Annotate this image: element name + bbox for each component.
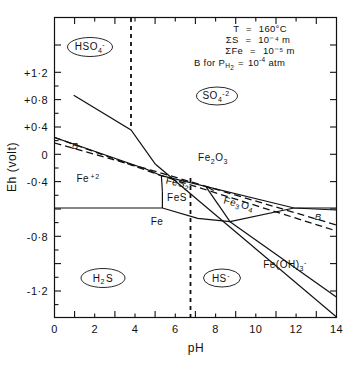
condition-total-sulfur: ΣS = 10⁻⁴ m: [226, 34, 291, 45]
series-fe-fes-boundary: [162, 208, 230, 222]
species-text-h2s: H2S: [93, 273, 113, 286]
line-label-b-right: B: [315, 211, 322, 222]
y-tick-label: -0·8: [27, 231, 48, 243]
x-axis-title: pH: [188, 341, 205, 355]
y-tick-label: +0·4: [24, 121, 48, 133]
y-axis-ticks: [55, 45, 62, 305]
condition-hydrogen-pressure: B for PH2=10-4atm: [194, 56, 285, 71]
y-axis-title-group: Eh (volt): [5, 142, 19, 192]
species-label-fe2o3: Fe2O3: [198, 152, 228, 165]
y-tick-label: -1·2: [27, 285, 48, 297]
x-tick-label: 12: [290, 323, 303, 335]
species-label-so4: SO4-2: [197, 87, 238, 105]
y-tick-label: +0·8: [24, 94, 48, 106]
x-tick-label: 14: [330, 323, 343, 335]
x-tick-label: 2: [91, 323, 98, 335]
condition-total-iron: ΣFe = 10⁻⁵ m: [225, 45, 294, 56]
species-label-h2s: H2S: [81, 269, 125, 288]
species-text-so4: SO4-2: [202, 90, 229, 103]
x-axis-tick-labels: 0 2 4 6 8 10 12 14: [51, 323, 343, 335]
x-tick-label: 10: [249, 323, 262, 335]
species-label-hs: HS-: [204, 269, 241, 287]
species-label-fe-metal: Fe: [151, 216, 164, 227]
x-tick-label: 8: [212, 323, 219, 335]
species-label-fes: FeS: [167, 192, 187, 203]
y-axis-tick-labels: +1·2 +0·8 +0·4 0 -0·4 -0·8 -1·2: [24, 67, 48, 298]
x-tick-label: 0: [51, 323, 58, 335]
species-label-fes2: FeS2: [164, 175, 190, 192]
line-label-b-left: B: [72, 140, 79, 151]
species-text-hs: HS-: [212, 272, 230, 284]
condition-temperature: T = 160°C: [233, 23, 287, 34]
species-label-fe2-aq: Fe+2: [76, 173, 99, 185]
species-label-hso4: HSO4-: [68, 38, 113, 57]
conditions-legend: T = 160°C ΣS = 10⁻⁴ m ΣFe = 10⁻⁵ m B for…: [194, 23, 295, 71]
species-text-hso4: HSO4-: [75, 41, 106, 54]
x-tick-label: 4: [132, 323, 139, 335]
series-fes2-left-boundary: [161, 176, 162, 192]
pourbaix-diagram-figure: +1·2 +0·8 +0·4 0 -0·4 -0·8 -1·2 Eh (volt…: [0, 0, 354, 371]
species-label-feoh3: Fe(OH)3-: [263, 259, 307, 272]
y-axis-title: Eh (volt): [5, 142, 19, 192]
x-tick-label: 6: [172, 323, 179, 335]
y-tick-label: 0: [41, 149, 48, 161]
series-hso4-so4-boundary: [74, 95, 156, 164]
y-tick-label: +1·2: [24, 67, 48, 79]
y-tick-label: -0·4: [27, 176, 48, 188]
eh-ph-chart-svg: +1·2 +0·8 +0·4 0 -0·4 -0·8 -1·2 Eh (volt…: [0, 0, 354, 371]
